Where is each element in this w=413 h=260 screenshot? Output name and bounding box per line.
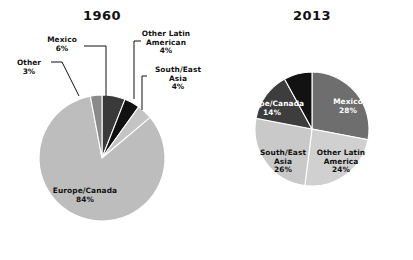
chart-title-2013: 2013 xyxy=(293,8,331,23)
slice-percent-europe-canada: 14% xyxy=(263,108,281,117)
slice-percent-other-latin-american: 4% xyxy=(160,46,173,55)
slice-percent-mexico: 6% xyxy=(56,44,69,53)
chart-title-1960: 1960 xyxy=(83,8,121,23)
slice-percent-other: 8% xyxy=(300,58,313,67)
slice-percent-europe-canada: 84% xyxy=(76,195,94,204)
slice-percent-south-east-asia: 4% xyxy=(172,82,185,91)
slice-percent-other: 3% xyxy=(23,67,36,76)
slice-percent-other-latin-america: 24% xyxy=(332,165,350,174)
slice-percent-mexico: 28% xyxy=(339,106,357,115)
slice-percent-south-east-asia: 26% xyxy=(274,165,292,174)
pie-chart-figure: Mexico6%Other LatinAmerican4%South/EastA… xyxy=(0,0,413,260)
figure-canvas: Mexico6%Other LatinAmerican4%South/EastA… xyxy=(0,0,413,260)
